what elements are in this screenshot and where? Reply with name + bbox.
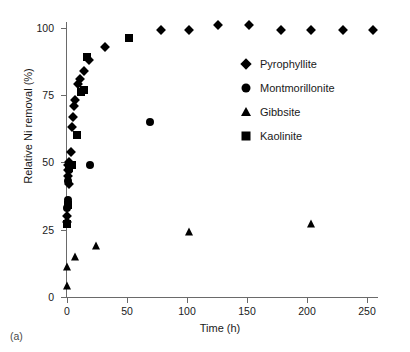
x-tick-label: 250	[347, 306, 387, 317]
panel-label: (a)	[10, 330, 23, 342]
data-point-circle	[86, 161, 94, 169]
data-point-triangle	[185, 228, 193, 236]
data-point-triangle	[92, 241, 100, 249]
x-tick	[127, 298, 128, 303]
x-tick	[307, 298, 308, 303]
data-point-circle	[146, 118, 154, 126]
x-tick-label: 150	[227, 306, 267, 317]
legend-item-montmorillonite[interactable]: Montmorillonite	[238, 76, 398, 100]
data-point-square	[68, 161, 76, 169]
data-point-square	[125, 34, 133, 42]
y-tick	[61, 28, 66, 29]
data-point-square	[64, 201, 72, 209]
triangle-icon	[238, 104, 254, 120]
y-tick	[61, 95, 66, 96]
x-tick	[247, 298, 248, 303]
y-tick-label: 100	[14, 23, 54, 33]
data-point-triangle	[307, 220, 315, 228]
y-axis-title: Relative Ni removal (%)	[22, 46, 34, 206]
x-tick	[67, 298, 68, 303]
diamond-icon	[238, 56, 254, 72]
figure-panel-a: 0255075100 050100150200250 Relative Ni r…	[0, 0, 410, 352]
chart-legend: PyrophylliteMontmorilloniteGibbsiteKaoli…	[238, 52, 398, 148]
data-point-triangle	[71, 252, 79, 260]
legend-item-pyrophyllite[interactable]: Pyrophyllite	[238, 52, 398, 76]
data-point-square	[80, 86, 88, 94]
y-tick	[61, 297, 66, 298]
x-tick-label: 100	[167, 306, 207, 317]
data-point-circle	[64, 177, 72, 185]
data-point-triangle	[63, 282, 71, 290]
data-point-triangle	[63, 263, 71, 271]
square-icon	[238, 128, 254, 144]
x-tick-label: 0	[47, 306, 87, 317]
x-axis-line	[66, 297, 378, 298]
y-tick-label: 75	[14, 90, 54, 100]
data-point-square	[63, 220, 71, 228]
y-tick	[61, 230, 66, 231]
x-axis-title: Time (h)	[140, 322, 300, 334]
legend-label: Gibbsite	[260, 106, 300, 118]
legend-label: Pyrophyllite	[260, 58, 317, 70]
y-tick-label: 50	[14, 157, 54, 167]
legend-label: Montmorillonite	[260, 82, 335, 94]
legend-item-kaolinite[interactable]: Kaolinite	[238, 124, 398, 148]
circle-icon	[238, 80, 254, 96]
data-point-square	[73, 131, 81, 139]
x-tick	[367, 298, 368, 303]
legend-label: Kaolinite	[260, 130, 302, 142]
legend-item-gibbsite[interactable]: Gibbsite	[238, 100, 398, 124]
y-tick-label: 25	[14, 225, 54, 235]
x-tick	[187, 298, 188, 303]
x-tick-label: 50	[107, 306, 147, 317]
data-point-square	[83, 53, 91, 61]
y-tick-label: 0	[14, 292, 54, 302]
x-tick-label: 200	[287, 306, 327, 317]
